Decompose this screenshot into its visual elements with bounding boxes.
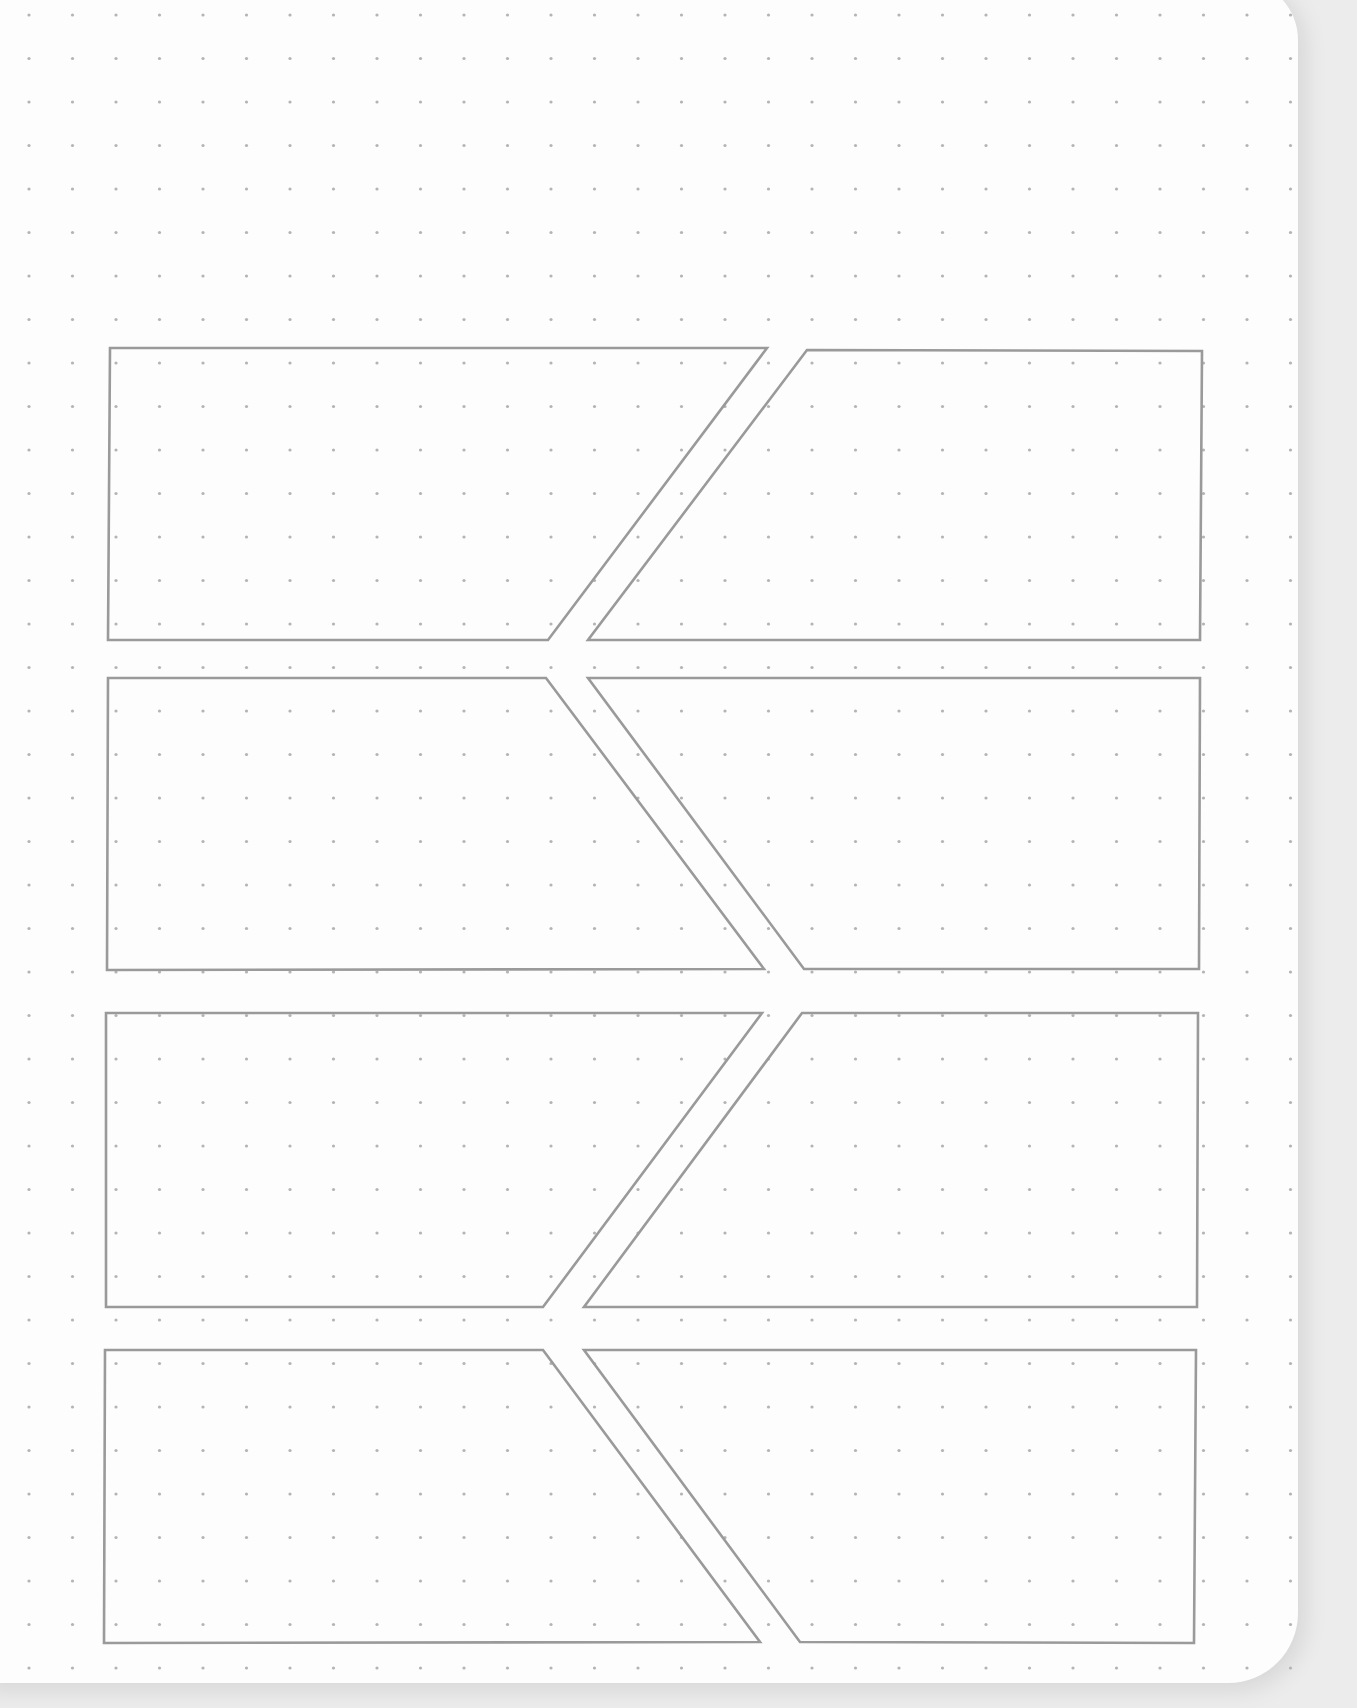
grid-dot — [1158, 1666, 1161, 1669]
grid-dot — [1071, 1014, 1074, 1017]
grid-dot — [1115, 1536, 1118, 1539]
grid-dot — [71, 622, 74, 625]
grid-dot — [1158, 100, 1161, 103]
grid-dot — [375, 1231, 378, 1234]
grid-dot — [593, 927, 596, 930]
grid-dot — [375, 1536, 378, 1539]
grid-dot — [723, 1275, 726, 1278]
grid-dot — [593, 405, 596, 408]
grid-dot — [941, 1362, 944, 1365]
grid-dot — [71, 13, 74, 16]
grid-dot — [462, 709, 465, 712]
grid-dot — [332, 1492, 335, 1495]
grid-dot — [27, 57, 30, 60]
grid-dot — [332, 1536, 335, 1539]
grid-dot — [288, 1318, 291, 1321]
panel-row2-right — [588, 678, 1200, 969]
grid-dot — [114, 57, 117, 60]
grid-dot — [158, 1362, 161, 1365]
grid-dot — [767, 1362, 770, 1365]
grid-dot — [680, 1579, 683, 1582]
grid-dot — [810, 100, 813, 103]
grid-dot — [984, 274, 987, 277]
grid-dot — [1245, 1275, 1248, 1278]
grid-dot — [941, 492, 944, 495]
grid-dot — [723, 1014, 726, 1017]
grid-dot — [201, 274, 204, 277]
grid-dot — [941, 100, 944, 103]
grid-dot — [201, 1144, 204, 1147]
grid-dot — [332, 840, 335, 843]
grid-dot — [1115, 231, 1118, 234]
grid-dot — [549, 448, 552, 451]
grid-dot — [245, 622, 248, 625]
grid-dot — [245, 1405, 248, 1408]
grid-dot — [245, 1057, 248, 1060]
grid-dot — [1245, 448, 1248, 451]
grid-dot — [1202, 796, 1205, 799]
grid-dot — [636, 231, 639, 234]
grid-dot — [1289, 318, 1292, 321]
grid-dot — [723, 448, 726, 451]
grid-dot — [723, 1492, 726, 1495]
grid-dot — [723, 1188, 726, 1191]
grid-dot — [288, 883, 291, 886]
grid-dot — [288, 1362, 291, 1365]
grid-dot — [114, 1362, 117, 1365]
grid-dot — [897, 1144, 900, 1147]
grid-dot — [854, 57, 857, 60]
grid-dot — [549, 1014, 552, 1017]
grid-dot — [462, 1231, 465, 1234]
grid-dot — [332, 187, 335, 190]
grid-dot — [288, 144, 291, 147]
grid-dot — [1115, 57, 1118, 60]
grid-dot — [941, 709, 944, 712]
grid-dot — [984, 927, 987, 930]
grid-dot — [897, 1666, 900, 1669]
grid-dot — [767, 535, 770, 538]
grid-dot — [593, 1623, 596, 1626]
grid-dot — [419, 361, 422, 364]
grid-dot — [1158, 1492, 1161, 1495]
grid-dot — [1289, 1144, 1292, 1147]
grid-dot — [158, 535, 161, 538]
grid-dot — [1202, 1623, 1205, 1626]
grid-dot — [1202, 57, 1205, 60]
grid-dot — [288, 666, 291, 669]
grid-dot — [506, 274, 509, 277]
grid-dot — [245, 13, 248, 16]
grid-dot — [27, 1449, 30, 1452]
grid-dot — [1202, 1492, 1205, 1495]
grid-dot — [636, 1275, 639, 1278]
grid-dot — [1245, 1579, 1248, 1582]
grid-dot — [1028, 318, 1031, 321]
grid-dot — [419, 1579, 422, 1582]
grid-dot — [114, 1449, 117, 1452]
grid-dot — [245, 535, 248, 538]
grid-dot — [549, 100, 552, 103]
grid-dot — [810, 883, 813, 886]
grid-dot — [1158, 840, 1161, 843]
grid-dot — [897, 448, 900, 451]
grid-dot — [288, 231, 291, 234]
grid-dot — [114, 1057, 117, 1060]
grid-dot — [1289, 1231, 1292, 1234]
grid-dot — [984, 1449, 987, 1452]
grid-dot — [245, 100, 248, 103]
grid-dot — [680, 1623, 683, 1626]
grid-dot — [71, 883, 74, 886]
grid-dot — [723, 1623, 726, 1626]
grid-dot — [1115, 927, 1118, 930]
grid-dot — [1289, 709, 1292, 712]
grid-dot — [419, 970, 422, 973]
grid-dot — [114, 231, 117, 234]
grid-dot — [723, 1144, 726, 1147]
grid-dot — [1202, 144, 1205, 147]
grid-dot — [854, 709, 857, 712]
grid-dot — [1071, 1536, 1074, 1539]
grid-dot — [71, 1666, 74, 1669]
grid-dot — [419, 405, 422, 408]
grid-dot — [593, 1492, 596, 1495]
grid-dot — [462, 970, 465, 973]
grid-dot — [1115, 492, 1118, 495]
